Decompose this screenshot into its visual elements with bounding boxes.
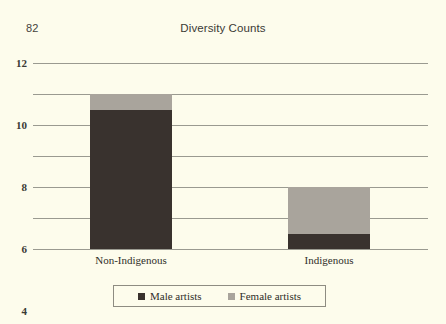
y-axis-tick-label: 10 (16, 119, 27, 131)
legend-label-male-artists: Male artists (150, 290, 202, 302)
bar-segment[interactable] (90, 94, 172, 110)
bar-segment[interactable] (288, 234, 370, 250)
legend-label-female-artists: Female artists (240, 290, 301, 302)
legend-swatch-male-artists (138, 293, 145, 300)
plot-area: 024681012 (33, 63, 428, 249)
chart-legend: Male artists Female artists (113, 285, 326, 307)
chart-title: Diversity Counts (0, 22, 446, 34)
bar-segment[interactable] (288, 187, 370, 234)
legend-item-female-artists: Female artists (228, 290, 301, 302)
chart-page: 82 Diversity Counts 024681012 Male artis… (0, 0, 446, 324)
x-axis-tick-label: Non-Indigenous (61, 254, 201, 266)
y-gridline: 0 (33, 249, 428, 250)
y-axis-tick-label: 12 (16, 57, 27, 69)
x-axis-tick-label: Indigenous (259, 254, 399, 266)
legend-swatch-female-artists (228, 293, 235, 300)
bar-group[interactable] (288, 187, 370, 249)
y-gridline: 12 (33, 63, 428, 64)
legend-item-male-artists: Male artists (138, 290, 202, 302)
bar-group[interactable] (90, 94, 172, 249)
y-axis-tick-label: 4 (22, 305, 28, 317)
bar-segment[interactable] (90, 110, 172, 250)
y-axis-tick-label: 6 (22, 243, 28, 255)
y-axis-tick-label: 8 (22, 181, 28, 193)
